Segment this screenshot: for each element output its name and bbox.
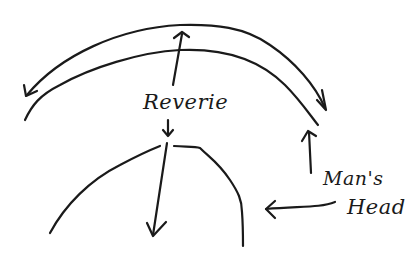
head-label: Head (347, 195, 406, 219)
head-interior-arrow (147, 143, 167, 236)
mans-label: Man's (323, 167, 384, 189)
head-arc (50, 146, 243, 246)
reverie-down-arrow (163, 120, 173, 136)
reverie-up-arrow (173, 32, 189, 85)
head-arrow-left (266, 201, 335, 218)
reverie-label: Reverie (143, 90, 228, 114)
diagram-canvas (0, 0, 418, 271)
mans-arrow-up (302, 131, 316, 173)
interior-arrowhead-icon (147, 222, 166, 236)
